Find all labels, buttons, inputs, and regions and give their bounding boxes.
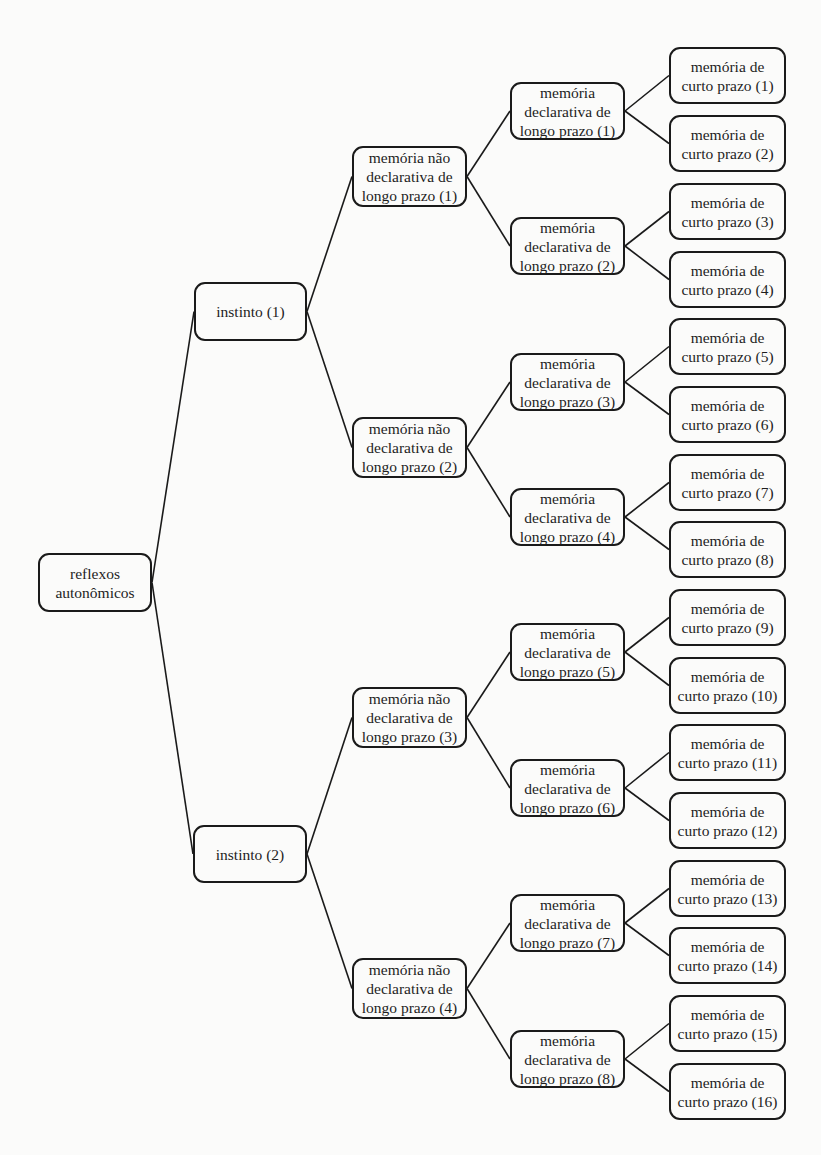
edge-i1-nd1 (307, 177, 352, 312)
node-instinct-i1: instinto (1) (194, 282, 307, 341)
node-short-term-c14: memória de curto prazo (14) (669, 927, 786, 984)
node-short-term-c1: memória de curto prazo (1) (669, 47, 786, 104)
edge-d5-c9 (625, 618, 669, 653)
node-short-term-c3: memória de curto prazo (3) (669, 183, 786, 240)
edge-nd3-d5 (467, 652, 510, 718)
edge-i2-nd4 (307, 854, 352, 989)
edge-d8-c16 (625, 1059, 669, 1092)
edge-root-i2 (152, 583, 193, 855)
edge-i2-nd3 (307, 718, 352, 855)
node-short-term-c2: memória de curto prazo (2) (669, 115, 786, 172)
node-short-term-c10: memória de curto prazo (10) (669, 657, 786, 714)
node-short-term-c5: memória de curto prazo (5) (669, 318, 786, 375)
node-declarative-d8: memória declarativa de longo prazo (8) (510, 1030, 625, 1088)
edge-nd2-d3 (467, 382, 510, 448)
node-declarative-d1: memória declarativa de longo prazo (1) (510, 82, 625, 140)
node-declarative-d3: memória declarativa de longo prazo (3) (510, 353, 625, 411)
node-nondeclarative-nd3: memória não declarativa de longo prazo (… (352, 687, 467, 748)
node-declarative-d5: memória declarativa de longo prazo (5) (510, 623, 625, 681)
node-root-root: reflexos autonômicos (38, 553, 152, 612)
node-short-term-c12: memória de curto prazo (12) (669, 792, 786, 849)
node-nondeclarative-nd1: memória não declarativa de longo prazo (… (352, 146, 467, 207)
node-nondeclarative-nd4: memória não declarativa de longo prazo (… (352, 958, 467, 1019)
node-short-term-c7: memória de curto prazo (7) (669, 454, 786, 511)
node-nondeclarative-nd2: memória não declarativa de longo prazo (… (352, 417, 467, 478)
edge-nd2-d4 (467, 448, 510, 518)
edge-d6-c12 (625, 788, 669, 821)
edge-d8-c15 (625, 1024, 669, 1060)
edge-d3-c5 (625, 347, 669, 383)
edge-i1-nd2 (307, 312, 352, 448)
node-declarative-d2: memória declarativa de longo prazo (2) (510, 217, 625, 275)
edge-d5-c10 (625, 652, 669, 686)
node-declarative-d6: memória declarativa de longo prazo (6) (510, 759, 625, 817)
node-short-term-c16: memória de curto prazo (16) (669, 1063, 786, 1120)
node-short-term-c4: memória de curto prazo (4) (669, 251, 786, 308)
edge-d4-c7 (625, 483, 669, 518)
node-declarative-d7: memória declarativa de longo prazo (7) (510, 894, 625, 952)
node-short-term-c13: memória de curto prazo (13) (669, 860, 786, 917)
edge-nd1-d1 (467, 111, 510, 177)
edge-d4-c8 (625, 517, 669, 550)
edge-d3-c6 (625, 382, 669, 415)
edge-d2-c4 (625, 246, 669, 280)
edge-nd4-d8 (467, 989, 510, 1060)
node-short-term-c11: memória de curto prazo (11) (669, 724, 786, 781)
edge-nd1-d2 (467, 177, 510, 247)
node-short-term-c9: memória de curto prazo (9) (669, 589, 786, 646)
edge-d1-c1 (625, 76, 669, 112)
edge-d7-c14 (625, 923, 669, 956)
node-instinct-i2: instinto (2) (193, 825, 307, 883)
node-short-term-c8: memória de curto prazo (8) (669, 521, 786, 578)
node-declarative-d4: memória declarativa de longo prazo (4) (510, 488, 625, 546)
edge-d7-c13 (625, 889, 669, 924)
edge-d2-c3 (625, 212, 669, 247)
node-short-term-c15: memória de curto prazo (15) (669, 995, 786, 1052)
edge-nd3-d6 (467, 718, 510, 789)
edge-d6-c11 (625, 753, 669, 789)
node-short-term-c6: memória de curto prazo (6) (669, 386, 786, 443)
edge-nd4-d7 (467, 923, 510, 989)
edge-root-i1 (152, 312, 194, 583)
edge-d1-c2 (625, 111, 669, 144)
